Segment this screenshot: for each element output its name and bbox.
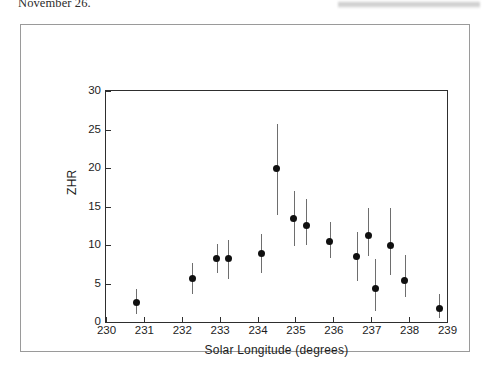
y-axis-tick: 0 [106,322,111,323]
page-body-text: November 26. [18,0,91,11]
y-axis-tick-label: 20 [88,160,101,175]
data-point-marker [133,299,140,306]
x-axis-tick-label: 233 [211,324,230,336]
x-axis-tick-label: 237 [362,324,381,336]
y-axis-tick: 25 [106,130,111,131]
data-point-marker [372,285,379,292]
x-axis-tick: 231 [144,317,145,322]
x-axis-tick-label: 231 [135,324,154,336]
x-axis-tick: 236 [333,317,334,322]
x-axis-tick-label: 232 [173,324,192,336]
x-axis-tick-label: 234 [248,324,267,336]
x-axis-tick: 235 [295,317,296,322]
x-axis-label: Solar Longitude (degrees) [105,343,448,357]
x-axis-tick-label: 239 [438,324,457,336]
x-axis-tick-label: 235 [286,324,305,336]
blurred-redaction-bar [338,1,480,8]
x-axis-tick-label: 230 [97,324,116,336]
x-axis-tick-label: 238 [400,324,419,336]
y-axis-tick: 5 [106,284,111,285]
x-axis-tick: 239 [447,317,448,322]
x-axis-tick: 238 [409,317,410,322]
y-axis-tick-label: 25 [88,122,101,137]
data-point-marker [326,238,333,245]
y-axis-tick: 15 [106,207,111,208]
x-axis-tick: 237 [371,317,372,322]
figure-frame: 0510152025302302312322332342352362372382… [20,24,470,352]
y-axis-label: ZHR [65,169,79,195]
y-axis-tick: 30 [106,91,111,92]
x-axis-tick: 230 [106,317,107,322]
x-axis-tick: 232 [182,317,183,322]
x-axis-tick-label: 236 [324,324,343,336]
y-axis-tick-label: 5 [95,276,101,291]
y-axis-tick: 20 [106,168,111,169]
data-point-marker [387,242,394,249]
data-point-marker [436,305,443,312]
x-axis-tick: 233 [220,317,221,322]
data-point-marker [225,255,232,262]
data-point-marker [401,277,408,284]
data-point-marker [365,232,372,239]
y-axis-tick-label: 30 [88,83,101,98]
data-point-marker [290,215,297,222]
plot-area: 0510152025302302312322332342352362372382… [105,90,448,323]
data-point-marker [189,275,196,282]
data-point-marker [353,253,360,260]
data-point-marker [258,250,265,257]
data-point-marker [273,165,280,172]
y-axis-tick-label: 15 [88,199,101,214]
x-axis-tick: 234 [258,317,259,322]
data-point-marker [303,222,310,229]
y-axis-tick-label: 10 [88,237,101,252]
data-point-marker [213,255,220,262]
y-axis-tick: 10 [106,245,111,246]
